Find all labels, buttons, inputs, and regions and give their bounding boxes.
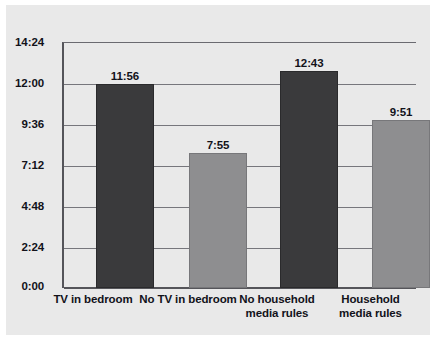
bar-tv-in-bedroom[interactable]: 11:56 [96, 84, 154, 288]
y-tick-label-9-36: 9:36 [0, 118, 44, 130]
bar-value-label: 12:43 [295, 57, 324, 69]
x-label-line1: No household [239, 293, 314, 305]
bar-chart-figure: 14:24 12:00 9:36 7:12 4:48 2:24 0:00 11:… [0, 0, 436, 342]
chart-panel: 14:24 12:00 9:36 7:12 4:48 2:24 0:00 11:… [6, 5, 430, 335]
bar-no-household-media-rules[interactable]: 12:43 [280, 71, 338, 288]
y-tick-label-12-00: 12:00 [0, 77, 44, 89]
bar-no-tv-in-bedroom[interactable]: 7:55 [189, 153, 247, 288]
y-tick-label-14-24: 14:24 [0, 36, 44, 48]
y-tick-label-4-48: 4:48 [0, 200, 44, 212]
y-tick-label-2-24: 2:24 [0, 241, 44, 253]
bar-household-media-rules[interactable]: 9:51 [372, 120, 430, 288]
x-label-line2: media rules [246, 307, 309, 319]
plot-area: 11:56 7:55 12:43 9:51 [62, 42, 416, 288]
y-tick-label-0-00: 0:00 [0, 280, 44, 292]
bar-value-label: 11:56 [111, 70, 139, 82]
bar-value-label: 7:55 [207, 139, 230, 151]
x-label-line1: Household [341, 293, 400, 305]
bar-value-label: 9:51 [390, 106, 413, 118]
x-label-line2: media rules [339, 307, 402, 319]
x-label-household-media-rules: Household media rules [308, 292, 433, 320]
y-tick-label-7-12: 7:12 [0, 159, 44, 171]
